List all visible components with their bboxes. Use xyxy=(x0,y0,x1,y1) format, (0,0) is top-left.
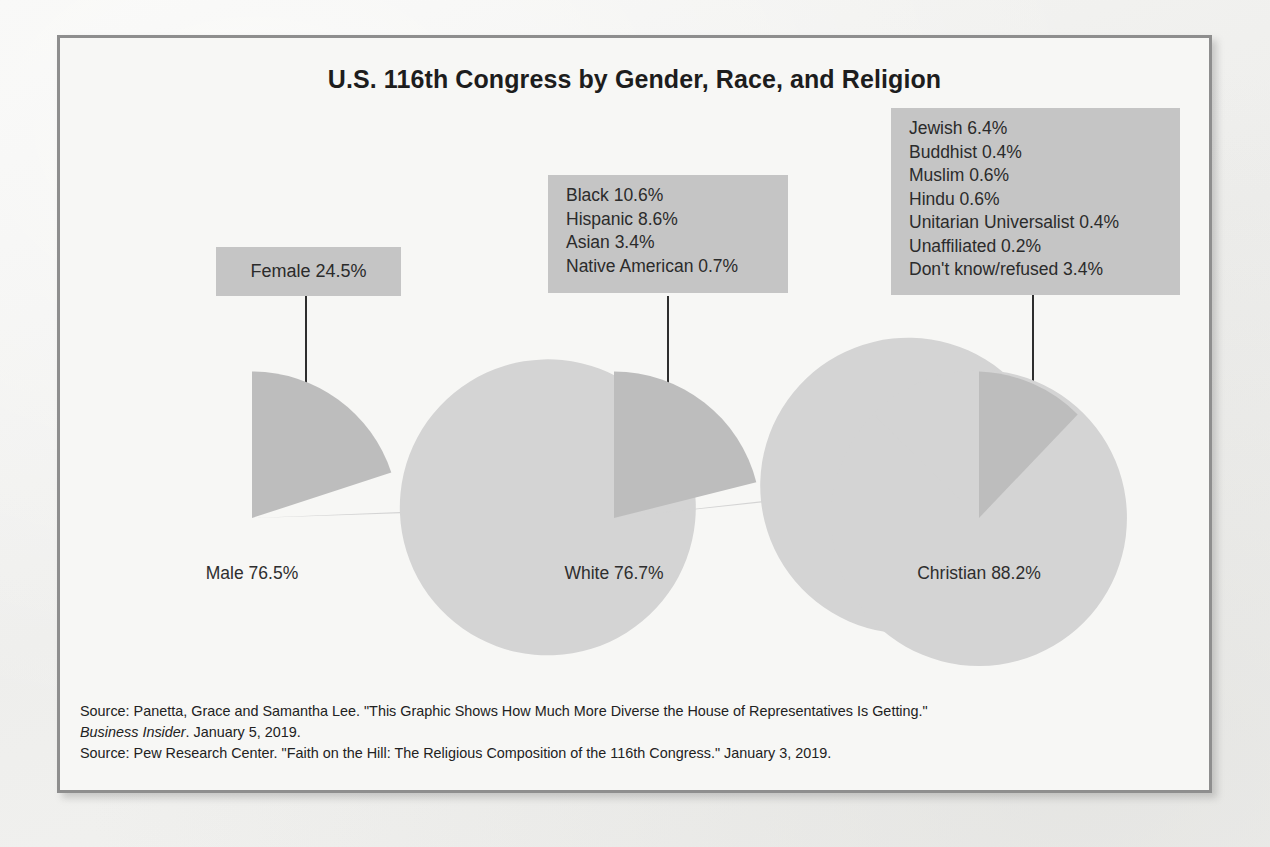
callout-line-jewish: Jewish 6.4% xyxy=(909,117,1166,141)
pie-slice-nonwhite-group xyxy=(614,371,756,518)
source-line-3: Source: Pew Research Center. "Faith on t… xyxy=(80,743,1191,764)
callout-box-gender: Female 24.5% xyxy=(216,247,401,296)
pie-slice-christian xyxy=(770,309,1189,728)
pie-race-svg xyxy=(464,368,764,668)
source-notes: Source: Panetta, Grace and Samantha Lee.… xyxy=(80,701,1191,764)
pie-religion-svg xyxy=(829,368,1129,668)
callout-box-religion: Jewish 6.4% Buddhist 0.4% Muslim 0.6% Hi… xyxy=(891,108,1180,295)
figure-inner-canvas: U.S. 116th Congress by Gender, Race, and… xyxy=(60,38,1209,790)
figure-frame: U.S. 116th Congress by Gender, Race, and… xyxy=(57,35,1212,793)
pie-label-gender: Male 76.5% xyxy=(102,563,402,584)
page-title: U.S. 116th Congress by Gender, Race, and… xyxy=(60,65,1209,94)
source-line-2: Business Insider. January 5, 2019. xyxy=(80,722,1191,743)
pie-label-religion: Christian 88.2% xyxy=(829,563,1129,584)
callout-line-muslim: Muslim 0.6% xyxy=(909,164,1166,188)
callout-line-female: Female 24.5% xyxy=(230,256,387,287)
pie-gender-svg xyxy=(102,368,402,668)
pie-chart-gender: Male 76.5% xyxy=(102,368,402,668)
pie-chart-religion: Christian 88.2% xyxy=(829,368,1129,668)
callout-line-hispanic: Hispanic 8.6% xyxy=(566,208,774,232)
callout-line-black: Black 10.6% xyxy=(566,184,774,208)
source-publication-name: Business Insider xyxy=(80,724,186,740)
callout-line-asian: Asian 3.4% xyxy=(566,231,774,255)
source-publication-date: . January 5, 2019. xyxy=(186,724,301,740)
source-line-1: Source: Panetta, Grace and Samantha Lee.… xyxy=(80,701,1191,722)
callout-box-race: Black 10.6% Hispanic 8.6% Asian 3.4% Nat… xyxy=(548,175,788,293)
callout-line-dont-know-refused: Don't know/refused 3.4% xyxy=(909,258,1166,282)
pie-chart-race: White 76.7% xyxy=(464,368,764,668)
callout-line-native-american: Native American 0.7% xyxy=(566,255,774,279)
callout-line-hindu: Hindu 0.6% xyxy=(909,188,1166,212)
pie-slice-female xyxy=(252,372,391,519)
callout-line-buddhist: Buddhist 0.4% xyxy=(909,141,1166,165)
callout-line-unaffiliated: Unaffiliated 0.2% xyxy=(909,235,1166,259)
callout-line-unitarian-universalist: Unitarian Universalist 0.4% xyxy=(909,211,1166,235)
pie-label-race: White 76.7% xyxy=(464,563,764,584)
